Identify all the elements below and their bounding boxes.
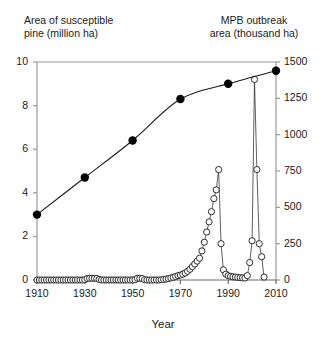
x-tick-label-2: 1950: [113, 287, 153, 299]
data-point-outbreak-1980: [201, 239, 207, 245]
data-point-pine-1970: [176, 95, 184, 103]
x-tick-label-4: 1990: [208, 287, 248, 299]
data-point-pine-1910: [33, 210, 41, 218]
x-tick-label-5: 2010: [256, 287, 296, 299]
data-point-outbreak-2004: [259, 254, 265, 260]
y-left-tick-label-3: 6: [2, 142, 28, 154]
y-right-tick-label-0: 0: [284, 273, 318, 285]
data-point-outbreak-2005: [261, 274, 267, 280]
x-tick-label-3: 1970: [160, 287, 200, 299]
data-point-outbreak-1984: [211, 196, 217, 202]
series-susceptible-pine: [33, 67, 280, 219]
data-point-outbreak-1981: [204, 229, 210, 235]
data-point-outbreak-1998: [244, 273, 250, 279]
y-right-tick-label-5: 1250: [284, 91, 318, 103]
y-right-tick-label-1: 250: [284, 237, 318, 249]
y-left-tick-label-0: 0: [2, 273, 28, 285]
x-axis-title: Year: [113, 318, 213, 330]
axes-group: [33, 62, 280, 284]
y-left-tick-label-2: 4: [2, 186, 28, 198]
y-right-tick-label-2: 500: [284, 200, 318, 212]
data-point-pine-2010: [272, 67, 280, 75]
y-right-tick-label-6: 1500: [284, 55, 318, 67]
data-point-outbreak-2002: [254, 166, 260, 172]
series-mpb-outbreak-area: [34, 76, 267, 283]
y-right-tick-label-4: 1000: [284, 128, 318, 140]
data-point-outbreak-2000: [249, 238, 255, 244]
x-tick-label-0: 1910: [17, 287, 57, 299]
x-tick-label-1: 1930: [65, 287, 105, 299]
data-point-outbreak-1979: [199, 248, 205, 254]
data-point-outbreak-1978: [196, 255, 202, 261]
data-point-outbreak-1987: [218, 241, 224, 247]
data-point-outbreak-1982: [206, 219, 212, 225]
data-point-outbreak-1983: [208, 209, 214, 215]
chart-figure: Area of susceptible pine (million ha) MP…: [0, 0, 327, 345]
y-left-tick-label-5: 10: [2, 55, 28, 67]
data-point-outbreak-2003: [256, 241, 262, 247]
data-point-outbreak-1985: [213, 187, 219, 193]
data-point-outbreak-1986: [216, 166, 222, 172]
data-point-outbreak-1999: [247, 259, 253, 265]
data-point-pine-1990: [224, 80, 232, 88]
y-left-tick-label-4: 8: [2, 99, 28, 111]
data-point-pine-1950: [128, 136, 136, 144]
y-left-tick-label-1: 2: [2, 229, 28, 241]
y-right-tick-label-3: 750: [284, 164, 318, 176]
data-point-pine-1930: [81, 173, 89, 181]
